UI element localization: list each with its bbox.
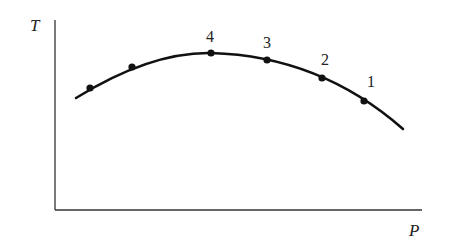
curve-point-a [86, 84, 93, 91]
point-label-4: 4 [206, 28, 214, 45]
curve-point-b [128, 63, 135, 70]
point-label-2: 2 [321, 51, 329, 68]
t-p-curve [76, 53, 403, 129]
point-label-1: 1 [367, 73, 375, 90]
curve-point-4 [207, 49, 214, 56]
curve-point-1 [360, 97, 367, 104]
point-label-3: 3 [263, 34, 271, 51]
x-axis-label: P [408, 221, 419, 240]
y-axis-label: T [30, 16, 41, 35]
curve-point-2 [318, 74, 325, 81]
curve-point-3 [263, 56, 270, 63]
diagram-canvas: T P 4 3 2 1 [0, 0, 452, 241]
